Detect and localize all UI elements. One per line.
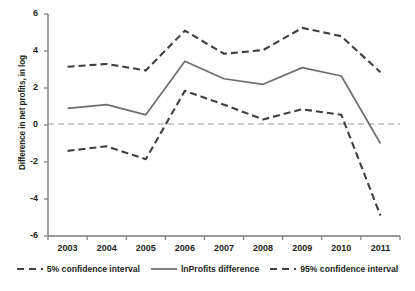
legend-item[interactable]: 5% confidence interval xyxy=(17,264,140,274)
y-tick-label: 0 xyxy=(20,119,38,129)
y-axis xyxy=(44,14,48,236)
data-series-group xyxy=(68,28,381,216)
data-series-line-1 xyxy=(68,61,381,143)
legend-item[interactable]: 95% confidence interval xyxy=(270,264,398,274)
y-tick-label: -4 xyxy=(20,193,38,203)
y-tick-label: 2 xyxy=(20,82,38,92)
y-tick-label: -6 xyxy=(20,230,38,240)
y-tick-label: -2 xyxy=(20,156,38,166)
legend-item-label: lnProfits difference xyxy=(181,264,259,274)
legend-item-label: 5% confidence interval xyxy=(47,264,140,274)
x-tick-label: 2005 xyxy=(126,243,166,253)
y-tick-label: 6 xyxy=(20,8,38,18)
x-tick-label: 2003 xyxy=(48,243,88,253)
x-tick-label: 2007 xyxy=(204,243,244,253)
legend-swatch-dashed-line-icon xyxy=(17,265,43,273)
figure-chart: Difference in net profits, in log 6420-2… xyxy=(0,0,415,291)
legend-swatch-solid-line-icon xyxy=(151,265,177,273)
chart-legend: 5% confidence intervallnProfits differen… xyxy=(0,264,415,274)
x-axis xyxy=(48,236,400,240)
x-tick-label: 2008 xyxy=(243,243,283,253)
legend-swatch-dashed-line-icon xyxy=(270,265,296,273)
legend-item-label: 95% confidence interval xyxy=(300,264,398,274)
y-tick-label: 4 xyxy=(20,45,38,55)
x-tick-label: 2010 xyxy=(321,243,361,253)
data-series-line-2 xyxy=(68,91,381,216)
x-tick-label: 2011 xyxy=(360,243,400,253)
data-series-line-0 xyxy=(68,28,381,72)
x-tick-label: 2004 xyxy=(87,243,127,253)
x-tick-label: 2009 xyxy=(282,243,322,253)
legend-item[interactable]: lnProfits difference xyxy=(151,264,259,274)
x-tick-label: 2006 xyxy=(165,243,205,253)
